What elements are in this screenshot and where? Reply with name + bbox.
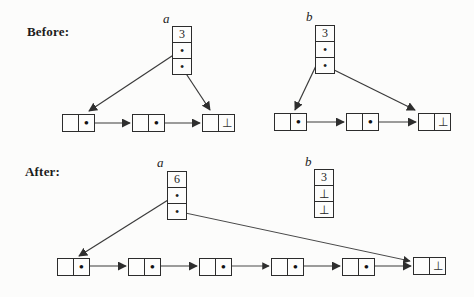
pointer-arrows-layer [0, 0, 474, 297]
next-pointer-dot: • [149, 115, 164, 131]
value-cell [133, 115, 149, 131]
list-node: • [342, 258, 375, 276]
value-cell [343, 259, 359, 275]
var-label-a-before: a [163, 11, 170, 27]
section-label-after: After: [25, 164, 60, 180]
list-node: • [57, 258, 90, 276]
value-cell [203, 115, 219, 131]
head-nil-cell: ⊥ [315, 185, 333, 201]
tail-pointer-dot: • [168, 203, 186, 219]
value-cell [414, 258, 430, 274]
section-label-before: Before: [27, 24, 69, 40]
list-node-last: ⊥ [418, 113, 451, 131]
next-pointer-dot: • [288, 259, 303, 275]
count-cell: 3 [315, 170, 333, 185]
arrow-after-a-head-to-first [79, 195, 176, 256]
next-pointer-dot: • [291, 114, 306, 130]
value-cell [419, 114, 435, 130]
list-node: • [346, 113, 379, 131]
figure-list-concatenation-diagram: Before: After: a 3 • • b 3 • • • • ⊥ • •… [0, 0, 474, 297]
header-a-before: 3 • • [172, 26, 192, 75]
list-node: • [132, 114, 165, 132]
list-node-last: ⊥ [202, 114, 235, 132]
count-cell: 3 [316, 26, 334, 41]
nil-cell: ⊥ [219, 115, 234, 131]
var-label-b-before: b [306, 9, 313, 25]
nil-cell: ⊥ [430, 258, 445, 274]
head-pointer-dot: • [173, 42, 191, 58]
tail-pointer-dot: • [173, 58, 191, 74]
nil-cell: ⊥ [435, 114, 450, 130]
var-label-a-after: a [157, 155, 164, 171]
count-cell: 3 [173, 27, 191, 42]
value-cell [129, 259, 145, 275]
arrow-after-a-tail-to-last [176, 211, 410, 261]
value-cell [272, 259, 288, 275]
arrow-before-a-head-to-first [89, 50, 181, 111]
list-node: • [274, 113, 307, 131]
value-cell [200, 259, 216, 275]
value-cell [347, 114, 363, 130]
var-label-b-after: b [305, 154, 312, 170]
list-node-last: ⊥ [413, 257, 446, 275]
list-node: • [62, 114, 95, 132]
next-pointer-dot: • [363, 114, 378, 130]
next-pointer-dot: • [359, 259, 374, 275]
value-cell [58, 259, 74, 275]
next-pointer-dot: • [216, 259, 231, 275]
head-pointer-dot: • [168, 187, 186, 203]
list-node: • [271, 258, 304, 276]
list-node: • [128, 258, 161, 276]
next-pointer-dot: • [79, 115, 94, 131]
next-pointer-dot: • [74, 259, 89, 275]
value-cell [275, 114, 291, 130]
head-pointer-dot: • [316, 41, 334, 57]
tail-nil-cell: ⊥ [315, 201, 333, 217]
count-cell: 6 [168, 172, 186, 187]
header-b-after: 3 ⊥ ⊥ [314, 169, 334, 218]
tail-pointer-dot: • [316, 57, 334, 73]
arrow-before-b-tail-to-last [324, 65, 415, 110]
header-a-after: 6 • • [167, 171, 187, 220]
next-pointer-dot: • [145, 259, 160, 275]
list-node: • [199, 258, 232, 276]
header-b-before: 3 • • [315, 25, 335, 74]
value-cell [63, 115, 79, 131]
